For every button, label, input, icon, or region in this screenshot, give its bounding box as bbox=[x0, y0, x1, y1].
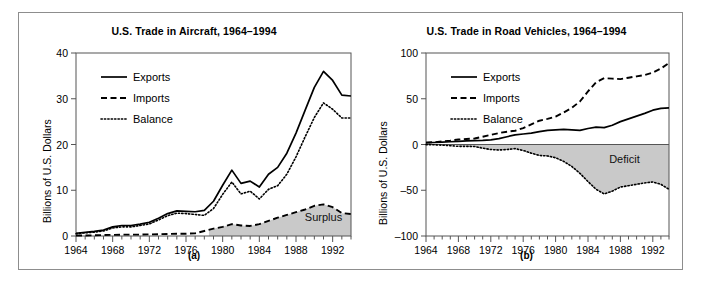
y-tick-label: –100 bbox=[395, 230, 419, 242]
figure-frame: U.S. Trade in Aircraft, 1964–1994 Billio… bbox=[18, 12, 683, 270]
chart-caption-aircraft: (a) bbox=[19, 250, 369, 261]
chart-panel-road-vehicles: U.S. Trade in Road Vehicles, 1964–1994 B… bbox=[369, 13, 684, 269]
y-axis-title-aircraft: Billions of U.S. Dollars bbox=[41, 119, 53, 223]
y-tick-label: 30 bbox=[56, 93, 68, 105]
chart-title-road-vehicles: U.S. Trade in Road Vehicles, 1964–1994 bbox=[369, 25, 684, 37]
y-tick-label: –50 bbox=[400, 184, 418, 196]
chart-title-aircraft: U.S. Trade in Aircraft, 1964–1994 bbox=[19, 25, 369, 37]
legend-label-balance: Balance bbox=[133, 113, 173, 125]
chart-svg-aircraft: 0102030401964196819721976198019841988199… bbox=[19, 13, 369, 271]
legend-label-imports: Imports bbox=[133, 92, 170, 104]
region-label-surplus: Surplus bbox=[305, 211, 343, 223]
y-tick-label: 50 bbox=[406, 93, 418, 105]
chart-caption-road-vehicles: (b) bbox=[369, 250, 684, 261]
chart-panel-aircraft: U.S. Trade in Aircraft, 1964–1994 Billio… bbox=[19, 13, 369, 269]
legend-label-balance: Balance bbox=[483, 113, 523, 125]
y-tick-label: 20 bbox=[56, 139, 68, 151]
y-tick-label: 100 bbox=[400, 47, 418, 59]
region-label-deficit: Deficit bbox=[609, 153, 640, 165]
y-tick-label: 40 bbox=[56, 47, 68, 59]
legend-label-exports: Exports bbox=[133, 71, 171, 83]
y-tick-label: 10 bbox=[56, 184, 68, 196]
y-tick-label: 0 bbox=[412, 139, 418, 151]
y-tick-label: 0 bbox=[62, 230, 68, 242]
legend-label-exports: Exports bbox=[483, 71, 521, 83]
y-axis-title-road-vehicles: Billions of U.S. Dollars bbox=[377, 121, 389, 225]
chart-svg-road-vehicles: –100–50050100196419681972197619801984198… bbox=[369, 13, 684, 271]
series-line-exports bbox=[426, 108, 669, 143]
legend-label-imports: Imports bbox=[483, 92, 520, 104]
